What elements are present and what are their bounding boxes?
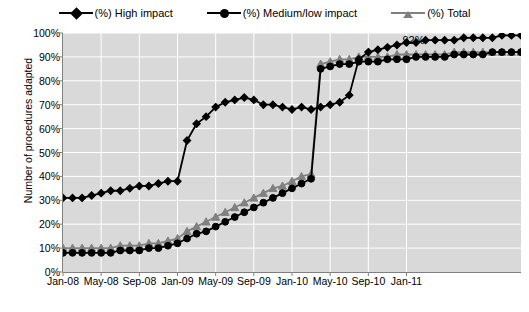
legend-label-medium-low-impact: (%) Medium/low impact bbox=[243, 8, 357, 19]
x-tick-label: Jan-11 bbox=[391, 276, 422, 287]
x-tick-label: Jan-08 bbox=[47, 276, 79, 287]
legend-item-total[interactable]: (%) Total bbox=[391, 8, 470, 19]
legend-marker-circle-icon bbox=[207, 8, 241, 19]
y-tick-label: 100% bbox=[24, 28, 60, 39]
x-tick-label: May-09 bbox=[198, 276, 233, 287]
y-tick-label: 40% bbox=[24, 171, 60, 182]
x-tick-label: May-10 bbox=[313, 276, 348, 287]
legend-item-medium-low-impact[interactable]: (%) Medium/low impact bbox=[207, 8, 357, 19]
y-tick-label: 90% bbox=[24, 52, 60, 63]
y-tick-label: 60% bbox=[24, 124, 60, 135]
y-tick-label: 30% bbox=[24, 195, 60, 206]
y-tick-label: 80% bbox=[24, 76, 60, 87]
y-tick-label: 50% bbox=[24, 148, 60, 159]
legend-label-high-impact: (%) High impact bbox=[95, 8, 173, 19]
plot-svg bbox=[63, 33, 521, 272]
chart-container: (%) High impact (%) Medium/low impact (%… bbox=[0, 0, 529, 312]
plot-area bbox=[63, 33, 521, 272]
y-tick-label: 70% bbox=[24, 100, 60, 111]
legend-marker-triangle-icon bbox=[391, 8, 425, 19]
y-tick-label: 20% bbox=[24, 219, 60, 230]
x-axis-tick-labels: Jan-08May-08Sep-08Jan-09May-09Sep-09Jan-… bbox=[0, 276, 529, 292]
x-tick-label: Sep-09 bbox=[237, 276, 271, 287]
x-tick-label: Jan-09 bbox=[161, 276, 193, 287]
y-axis-tick-labels: 100%90%80%70%60%50%40%30%20%10%0% bbox=[20, 0, 60, 312]
x-tick-label: Sep-10 bbox=[351, 276, 385, 287]
legend-label-total: (%) Total bbox=[427, 8, 470, 19]
x-tick-label: Sep-08 bbox=[122, 276, 156, 287]
y-tick-label: 10% bbox=[24, 243, 60, 254]
x-tick-label: Jan-10 bbox=[276, 276, 308, 287]
legend-item-high-impact[interactable]: (%) High impact bbox=[59, 8, 173, 19]
x-tick-label: May-08 bbox=[84, 276, 119, 287]
annotation-92-percent: 92% bbox=[403, 35, 425, 46]
chart-legend: (%) High impact (%) Medium/low impact (%… bbox=[0, 4, 529, 22]
legend-marker-diamond-icon bbox=[59, 8, 93, 19]
